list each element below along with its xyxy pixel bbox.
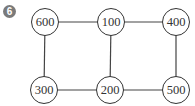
node-500: 500	[162, 76, 190, 104]
node-600: 600	[31, 8, 59, 36]
node-200: 200	[96, 76, 124, 104]
node-100: 100	[97, 8, 125, 36]
node-300: 300	[30, 76, 58, 104]
node-400: 400	[162, 8, 190, 36]
